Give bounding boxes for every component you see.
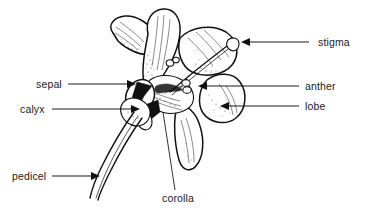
- label-sepal: sepal: [36, 78, 62, 90]
- stigma-head: [227, 38, 239, 51]
- label-anther: anther: [305, 80, 336, 92]
- petal-upper-right: [179, 27, 237, 75]
- label-pedicel: pedicel: [12, 170, 46, 182]
- label-lobe: lobe: [305, 100, 325, 112]
- label-calyx: calyx: [20, 103, 45, 115]
- figure-canvas: stigma anther lobe sepal calyx pedicel c…: [0, 0, 368, 213]
- label-corolla: corolla: [162, 192, 194, 204]
- corolla-lobe-right: [200, 74, 245, 122]
- flower-diagram: stigma anther lobe sepal calyx pedicel c…: [0, 0, 368, 213]
- label-stigma: stigma: [318, 36, 350, 48]
